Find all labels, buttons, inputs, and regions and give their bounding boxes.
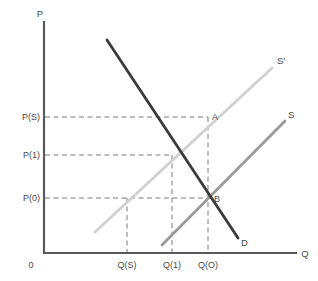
chart-canvas: P Q 0 P(S) P(1) P(0) Q(S) Q(1) Q(O) S' S… — [0, 0, 318, 281]
y-tick-label-ps: P(S) — [22, 112, 40, 122]
point-label-b: B — [214, 194, 220, 204]
x-tick-label-q1: Q(1) — [163, 260, 181, 270]
y-axis-label: P — [37, 8, 43, 19]
curves-group — [95, 40, 285, 245]
supply-demand-chart: P Q 0 P(S) P(1) P(0) Q(S) Q(1) Q(O) S' S… — [0, 0, 318, 281]
curve-label-demand: D — [241, 237, 248, 248]
x-tick-label-qs: Q(S) — [118, 260, 137, 270]
curve-labels-group: S' S D — [241, 55, 294, 248]
x-tick-label-qo: Q(O) — [198, 260, 218, 270]
origin-label: 0 — [28, 260, 33, 270]
curve-supply-shifted — [95, 68, 272, 232]
y-tick-label-p0: P(0) — [23, 193, 40, 203]
curve-supply-original — [162, 121, 285, 245]
point-label-a: A — [212, 112, 218, 122]
curve-label-supply-original: S — [288, 109, 294, 120]
x-axis-label: Q — [301, 248, 308, 259]
y-tick-label-p1: P(1) — [23, 150, 40, 160]
y-tick-labels-group: P(S) P(1) P(0) — [22, 112, 40, 203]
curve-label-supply-shifted: S' — [277, 55, 285, 66]
x-tick-labels-group: Q(S) Q(1) Q(O) — [118, 260, 219, 270]
guide-lines-group — [45, 117, 212, 252]
